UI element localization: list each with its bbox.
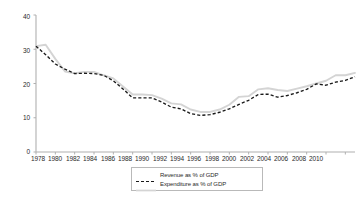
y-tick-label: 0	[14, 148, 30, 155]
legend-label-revenue: Revenue as % of GDP	[160, 172, 218, 178]
legend-swatch-dashed-icon	[135, 171, 157, 178]
y-tick-label: 30	[14, 47, 30, 54]
legend-item-expenditure: Expenditure as % of GDP	[135, 179, 259, 188]
legend-item-revenue: Revenue as % of GDP	[135, 170, 259, 179]
series-line-expenditure	[36, 45, 355, 112]
y-tick-label: 10	[14, 114, 30, 121]
y-tick-label: 40	[14, 13, 30, 20]
legend-label-expenditure: Expenditure as % of GDP	[160, 181, 226, 187]
chart-legend: Revenue as % of GDP Expenditure as % of …	[131, 167, 263, 191]
legend-swatch-solid-icon	[135, 180, 157, 187]
x-tick-label: 2010	[304, 155, 328, 162]
series-line-revenue	[36, 46, 355, 115]
y-tick-label: 20	[14, 81, 30, 88]
chart-container: 403020100 197819801982198419861988199019…	[0, 0, 362, 197]
